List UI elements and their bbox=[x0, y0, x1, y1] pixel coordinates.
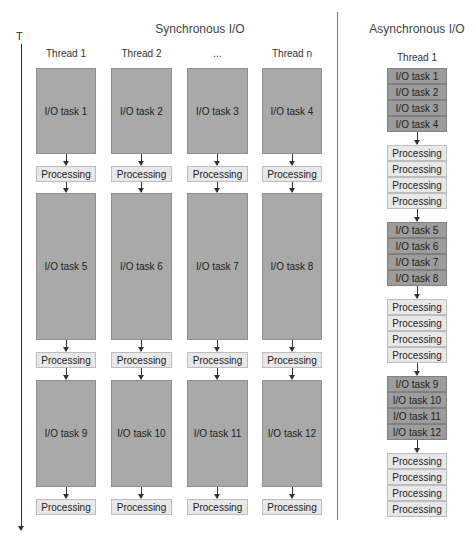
sync-thread-header: Thread 2 bbox=[111, 48, 172, 59]
sync-processing: Processing bbox=[111, 352, 172, 368]
flow-arrow bbox=[217, 487, 218, 498]
sync-title: Synchronous I/O bbox=[130, 22, 270, 36]
async-io-task: I/O task 11 bbox=[387, 408, 447, 424]
sync-processing: Processing bbox=[262, 166, 322, 182]
flow-arrow bbox=[417, 440, 418, 452]
flow-arrow bbox=[292, 368, 293, 379]
flow-arrow bbox=[66, 368, 67, 379]
flow-arrow bbox=[141, 340, 142, 351]
flow-arrow bbox=[66, 487, 67, 498]
async-thread-header: Thread 1 bbox=[387, 52, 447, 63]
async-processing: Processing bbox=[387, 485, 447, 501]
async-io-task: I/O task 1 bbox=[387, 68, 447, 84]
sync-processing: Processing bbox=[262, 499, 322, 515]
flow-arrow bbox=[292, 340, 293, 351]
async-io-task: I/O task 2 bbox=[387, 84, 447, 100]
async-processing: Processing bbox=[387, 193, 447, 209]
sync-thread-header: ... bbox=[187, 48, 248, 59]
async-io-task: I/O task 6 bbox=[387, 238, 447, 254]
flow-arrow bbox=[217, 154, 218, 165]
sync-thread-header: Thread n bbox=[262, 48, 322, 59]
flow-arrow bbox=[217, 368, 218, 379]
sync-processing: Processing bbox=[36, 499, 96, 515]
flow-arrow bbox=[141, 182, 142, 192]
async-processing: Processing bbox=[387, 145, 447, 161]
sync-processing: Processing bbox=[111, 166, 172, 182]
flow-arrow bbox=[417, 209, 418, 221]
flow-arrow bbox=[141, 154, 142, 165]
async-processing: Processing bbox=[387, 347, 447, 363]
async-processing: Processing bbox=[387, 299, 447, 315]
async-title: Asynchronous I/O bbox=[352, 22, 476, 36]
async-processing: Processing bbox=[387, 315, 447, 331]
section-divider bbox=[337, 12, 338, 520]
flow-arrow bbox=[292, 154, 293, 165]
sync-io-task: I/O task 4 bbox=[262, 68, 322, 154]
sync-io-task: I/O task 7 bbox=[187, 193, 248, 340]
sync-io-task: I/O task 5 bbox=[36, 193, 96, 340]
async-processing: Processing bbox=[387, 331, 447, 347]
sync-io-task: I/O task 2 bbox=[111, 68, 172, 154]
time-axis-arrow bbox=[21, 44, 22, 530]
flow-arrow bbox=[417, 363, 418, 375]
async-io-task: I/O task 4 bbox=[387, 116, 447, 132]
sync-thread-header: Thread 1 bbox=[36, 48, 96, 59]
async-io-task: I/O task 3 bbox=[387, 100, 447, 116]
flow-arrow bbox=[217, 182, 218, 192]
async-io-task: I/O task 5 bbox=[387, 222, 447, 238]
async-processing: Processing bbox=[387, 161, 447, 177]
flow-arrow bbox=[66, 182, 67, 192]
async-io-task: I/O task 7 bbox=[387, 254, 447, 270]
flow-arrow bbox=[217, 340, 218, 351]
sync-io-task: I/O task 11 bbox=[187, 380, 248, 487]
sync-processing: Processing bbox=[187, 166, 248, 182]
sync-processing: Processing bbox=[187, 352, 248, 368]
async-processing: Processing bbox=[387, 469, 447, 485]
sync-io-task: I/O task 10 bbox=[111, 380, 172, 487]
sync-io-task: I/O task 6 bbox=[111, 193, 172, 340]
sync-processing: Processing bbox=[262, 352, 322, 368]
sync-io-task: I/O task 12 bbox=[262, 380, 322, 487]
flow-arrow bbox=[66, 154, 67, 165]
sync-io-task: I/O task 3 bbox=[187, 68, 248, 154]
sync-processing: Processing bbox=[36, 352, 96, 368]
flow-arrow bbox=[292, 487, 293, 498]
flow-arrow bbox=[292, 182, 293, 192]
sync-io-task: I/O task 9 bbox=[36, 380, 96, 487]
sync-processing: Processing bbox=[36, 166, 96, 182]
async-io-task: I/O task 10 bbox=[387, 392, 447, 408]
sync-processing: Processing bbox=[111, 499, 172, 515]
async-processing: Processing bbox=[387, 453, 447, 469]
async-io-task: I/O task 9 bbox=[387, 376, 447, 392]
sync-io-task: I/O task 8 bbox=[262, 193, 322, 340]
flow-arrow bbox=[66, 340, 67, 351]
time-axis-label: T bbox=[16, 30, 23, 42]
flow-arrow bbox=[417, 286, 418, 298]
sync-processing: Processing bbox=[187, 499, 248, 515]
async-io-task: I/O task 8 bbox=[387, 270, 447, 286]
async-processing: Processing bbox=[387, 501, 447, 517]
sync-io-task: I/O task 1 bbox=[36, 68, 96, 154]
async-processing: Processing bbox=[387, 177, 447, 193]
flow-arrow bbox=[141, 368, 142, 379]
flow-arrow bbox=[141, 487, 142, 498]
async-io-task: I/O task 12 bbox=[387, 424, 447, 440]
flow-arrow bbox=[417, 132, 418, 144]
